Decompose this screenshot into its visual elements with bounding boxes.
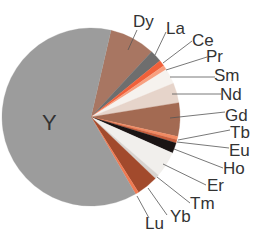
slice-label-er: Er [207,176,224,195]
slice-label-tm: Tm [190,194,215,213]
slice-label-yb: Yb [170,207,191,226]
slice-label-dy: Dy [133,12,154,31]
leader-line-eu [177,142,229,148]
leader-line-pr [166,57,207,70]
slice-label-tb: Tb [230,123,250,142]
leader-line-er [163,164,206,185]
slice-label-sm: Sm [214,66,240,85]
leader-line-yb [148,188,167,215]
slice-label-eu: Eu [229,141,250,160]
pie-slices [2,28,180,206]
slice-label-pr: Pr [206,47,223,66]
leader-line-ho [174,149,223,168]
slice-label-nd: Nd [220,85,242,104]
slice-label-la: La [166,19,185,38]
slice-label-ho: Ho [223,159,245,178]
slice-label-y: Y [42,110,57,135]
leader-line-tb [178,130,230,140]
rare-earth-pie-chart: DyLaCePrSmNdGdTbEuHoErTmYbLu Y [0,0,256,250]
leader-line-tm [157,177,190,203]
leader-line-ce [163,41,192,63]
leader-line-la [155,32,166,55]
slice-label-lu: Lu [145,214,164,233]
